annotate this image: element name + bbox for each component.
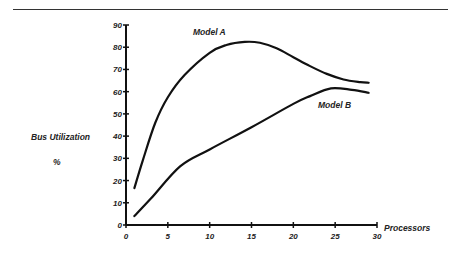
y-tick-label: 30 (113, 154, 122, 163)
y-axis-unit: % (53, 157, 61, 167)
line-chart: 0102030405060708090051015202530 (0, 0, 460, 260)
series-label-model-a: Model A (193, 27, 226, 37)
series-label-model-b: Model B (318, 100, 351, 110)
y-tick-label: 80 (113, 43, 122, 52)
y-tick-label: 10 (113, 199, 122, 208)
x-tick-label: 5 (166, 232, 171, 241)
y-tick-label: 20 (112, 177, 122, 186)
y-tick-label: 60 (113, 88, 122, 97)
y-tick-label: 0 (118, 221, 123, 230)
x-tick-label: 10 (205, 232, 214, 241)
x-tick-label: 20 (288, 232, 298, 241)
y-tick-label: 90 (113, 21, 122, 30)
series-line-model-a (134, 42, 368, 188)
y-tick-label: 50 (113, 110, 122, 119)
y-tick-label: 40 (112, 132, 122, 141)
y-tick-label: 70 (113, 65, 122, 74)
x-tick-label: 0 (124, 232, 129, 241)
x-tick-label: 30 (373, 232, 382, 241)
x-tick-label: 25 (330, 232, 340, 241)
x-tick-label: 15 (247, 232, 256, 241)
y-axis-label: Bus Utilization (31, 132, 90, 142)
x-axis-label: Processors (384, 223, 430, 233)
